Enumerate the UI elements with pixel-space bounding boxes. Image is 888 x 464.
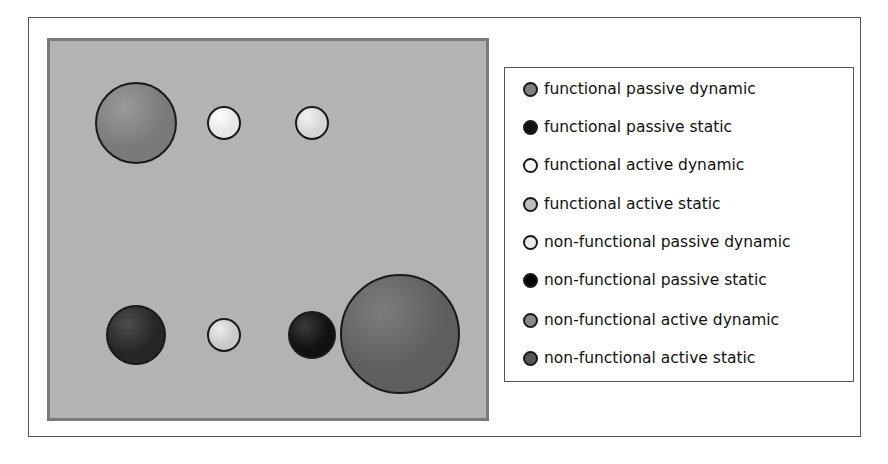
sphere-functional-passive-dynamic bbox=[95, 82, 177, 164]
sphere-functional-passive-static bbox=[106, 305, 166, 365]
legend-label: functional active dynamic bbox=[544, 156, 744, 174]
legend-item: functional passive dynamic bbox=[523, 77, 756, 101]
legend-label: functional passive static bbox=[544, 118, 732, 136]
legend-marker-icon bbox=[523, 273, 538, 288]
legend-label: non-functional passive dynamic bbox=[544, 233, 790, 251]
sphere-non-functional-active-static bbox=[340, 274, 460, 394]
sphere-functional-active-static bbox=[207, 318, 241, 352]
legend-marker-icon bbox=[523, 82, 538, 97]
sphere-non-functional-passive-static bbox=[288, 311, 336, 359]
legend-marker-icon bbox=[523, 158, 538, 173]
sphere-non-functional-passive-dynamic bbox=[295, 106, 329, 140]
legend-item: non-functional active dynamic bbox=[523, 308, 779, 332]
legend-item: functional passive static bbox=[523, 115, 732, 139]
legend-item: non-functional passive dynamic bbox=[523, 230, 790, 254]
legend-label: functional active static bbox=[544, 195, 721, 213]
legend-item: functional active dynamic bbox=[523, 153, 744, 177]
legend-label: functional passive dynamic bbox=[544, 80, 756, 98]
legend-item: functional active static bbox=[523, 192, 721, 216]
legend-marker-icon bbox=[523, 313, 538, 328]
legend: functional passive dynamic functional pa… bbox=[504, 67, 854, 382]
legend-label: non-functional passive static bbox=[544, 271, 767, 289]
sphere-functional-active-dynamic bbox=[207, 106, 241, 140]
legend-marker-icon bbox=[523, 235, 538, 250]
legend-item: non-functional passive static bbox=[523, 268, 767, 292]
legend-label: non-functional active static bbox=[544, 349, 755, 367]
legend-item: non-functional active static bbox=[523, 346, 755, 370]
legend-marker-icon bbox=[523, 120, 538, 135]
legend-label: non-functional active dynamic bbox=[544, 311, 779, 329]
legend-marker-icon bbox=[523, 351, 538, 366]
legend-marker-icon bbox=[523, 197, 538, 212]
